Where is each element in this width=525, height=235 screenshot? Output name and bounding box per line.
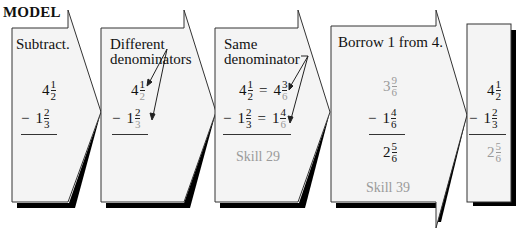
denominator: 3 xyxy=(246,118,252,130)
whole-number: 2 xyxy=(383,144,391,161)
subtrahend: − 1 23 xyxy=(112,107,140,130)
skill-reference: Skill 39 xyxy=(366,180,410,196)
fraction: 56 xyxy=(392,141,398,164)
fraction: 23 xyxy=(44,107,50,130)
fraction: 12 xyxy=(51,79,57,102)
subtrahend: − 1 23 xyxy=(469,107,497,130)
denominator: 6 xyxy=(282,90,288,102)
panel-3-title-line1: Same xyxy=(224,36,257,52)
numerator: 9 xyxy=(392,75,398,86)
denominator: 6 xyxy=(391,118,397,130)
panel-4-title: Borrow 1 from 4. xyxy=(338,34,443,50)
numerator: 2 xyxy=(135,107,141,118)
minus-sign: − xyxy=(223,110,231,127)
difference-result: 2 56 xyxy=(487,141,501,164)
minuend-conversion: 4 12 = 4 36 xyxy=(239,79,287,102)
numerator: 2 xyxy=(44,107,50,118)
numerator: 1 xyxy=(248,79,254,90)
whole-number: 4 xyxy=(487,82,495,99)
numerator: 1 xyxy=(51,79,57,90)
whole-number: 3 xyxy=(383,78,391,95)
numerator: 1 xyxy=(496,79,502,90)
fraction: 23 xyxy=(135,107,141,130)
numerator: 2 xyxy=(492,107,498,118)
equals-sign: = xyxy=(259,82,267,99)
minuend: 4 12 xyxy=(131,79,145,102)
subtrahend-conversion: − 1 23 = 1 46 xyxy=(223,107,286,130)
denominator: 6 xyxy=(496,152,502,164)
denominator: 3 xyxy=(44,118,50,130)
minuend: 4 12 xyxy=(487,79,501,102)
denominator: 2 xyxy=(51,90,57,102)
denominator: 6 xyxy=(392,86,398,98)
denominator: 2 xyxy=(496,90,502,102)
subtrahend: − 1 46 xyxy=(368,107,396,130)
sum-line xyxy=(469,134,506,135)
subtrahend: − 1 23 xyxy=(21,107,49,130)
fraction: 23 xyxy=(246,107,252,130)
denominator: 3 xyxy=(492,118,498,130)
numerator: 4 xyxy=(391,107,397,118)
numerator: 4 xyxy=(280,107,286,118)
minuend: 4 12 xyxy=(42,79,56,102)
whole-number: 1 xyxy=(126,110,134,127)
minus-sign: − xyxy=(368,110,376,127)
whole-number: 1 xyxy=(35,110,43,127)
fraction: 46 xyxy=(280,107,286,130)
model-label: MODEL xyxy=(3,4,61,21)
minus-sign: − xyxy=(112,110,120,127)
numerator: 5 xyxy=(496,141,502,152)
sum-line xyxy=(21,134,57,135)
numerator: 1 xyxy=(140,79,146,90)
skill-reference: Skill 29 xyxy=(236,149,280,165)
sum-line xyxy=(112,134,148,135)
denominator: 2 xyxy=(248,90,254,102)
fraction: 12 xyxy=(248,79,254,102)
equals-sign: = xyxy=(257,110,265,127)
fraction: 46 xyxy=(391,107,397,130)
panel-3-title-line2: denominator xyxy=(224,51,300,67)
sum-line xyxy=(369,134,405,135)
denominator: 3 xyxy=(135,118,141,130)
fraction: 23 xyxy=(492,107,498,130)
minus-sign: − xyxy=(469,110,477,127)
whole-number: 2 xyxy=(487,144,495,161)
whole-number: 4 xyxy=(131,82,139,99)
whole-number: 1 xyxy=(237,110,245,127)
panel-2-title-line1: Different xyxy=(110,36,165,52)
fraction: 12 xyxy=(140,79,146,102)
whole-number: 1 xyxy=(483,110,491,127)
sum-line xyxy=(223,134,291,135)
whole-number: 1 xyxy=(272,110,280,127)
whole-number: 1 xyxy=(382,110,390,127)
fraction: 56 xyxy=(496,141,502,164)
minus-sign: − xyxy=(21,110,29,127)
whole-number: 4 xyxy=(273,82,281,99)
panel-2-title-line2: denominators xyxy=(110,51,192,67)
fraction: 12 xyxy=(496,79,502,102)
numerator: 5 xyxy=(392,141,398,152)
denominator: 2 xyxy=(140,90,146,102)
fraction: 96 xyxy=(392,75,398,98)
numerator: 2 xyxy=(246,107,252,118)
whole-number: 4 xyxy=(42,82,50,99)
denominator: 6 xyxy=(392,152,398,164)
numerator: 3 xyxy=(282,79,288,90)
denominator: 6 xyxy=(280,118,286,130)
whole-number: 4 xyxy=(239,82,247,99)
panel-1-title: Subtract. xyxy=(16,36,70,52)
regrouped-minuend: 3 96 xyxy=(383,75,397,98)
difference-result: 2 56 xyxy=(383,141,397,164)
fraction: 36 xyxy=(282,79,288,102)
